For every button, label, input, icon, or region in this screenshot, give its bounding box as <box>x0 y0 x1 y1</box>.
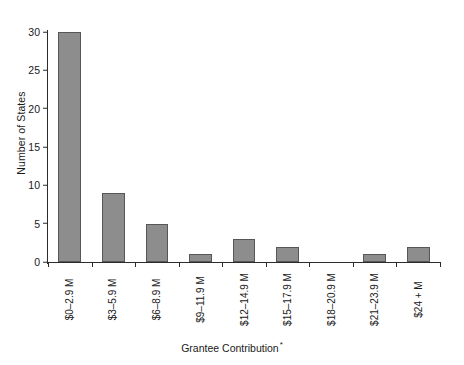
footnote-marker: * <box>280 340 283 349</box>
x-axis-tick-label: $18–20.9 M <box>309 268 353 330</box>
x-axis-tick-label-text: $21–23.9 M <box>369 273 380 326</box>
x-axis-tick-label-text: $0–2.9 M <box>64 279 75 321</box>
bar <box>407 247 430 262</box>
x-axis-tick-label: $21–23.9 M <box>353 268 397 330</box>
y-axis-tick-label: 15 <box>28 142 43 153</box>
y-axis-tick-mark <box>43 32 47 33</box>
y-axis-tick: 25 <box>3 65 47 76</box>
x-axis-tick-mark <box>309 263 310 267</box>
x-axis-tick-mark <box>353 263 354 267</box>
x-axis-tick-label-text: $3–5.9 M <box>108 279 119 321</box>
bar <box>233 239 256 262</box>
x-axis-tick-label-text: $9–11.9 M <box>195 276 206 323</box>
y-axis-tick-mark <box>43 108 47 109</box>
bar <box>363 254 386 262</box>
x-axis-labels: $0–2.9 M$3–5.9 M$6–8.9 M$9–11.9 M$12–14.… <box>48 268 440 330</box>
y-axis-tick-label: 25 <box>28 65 43 76</box>
x-axis-tick-label: $3–5.9 M <box>92 268 136 330</box>
y-axis-tick-label: 0 <box>34 257 43 268</box>
x-axis-line <box>47 262 441 263</box>
x-axis-tick-mark <box>396 263 397 267</box>
y-axis-tick: 15 <box>3 142 47 153</box>
x-axis-title: Grantee Contribution* <box>0 340 464 354</box>
x-axis-tick-mark <box>48 263 49 267</box>
y-axis-tick-label: 10 <box>28 180 43 191</box>
y-axis-ticks: 051015202530 <box>0 0 47 365</box>
x-axis-title-text: Grantee Contribution <box>181 342 278 354</box>
bar <box>189 254 212 262</box>
y-axis-tick: 30 <box>3 27 47 38</box>
x-axis-tick-label-text: $6–8.9 M <box>151 279 162 321</box>
x-axis-tick-mark <box>440 263 441 267</box>
y-axis-tick: 5 <box>3 218 47 229</box>
x-axis-tick-mark <box>135 263 136 267</box>
x-axis-tick-mark <box>222 263 223 267</box>
y-axis-tick: 0 <box>3 257 47 268</box>
x-axis-tick-label: $15–17.9 M <box>266 268 310 330</box>
x-axis-tick-label-text: $15–17.9 M <box>282 273 293 326</box>
x-axis-tick-mark <box>179 263 180 267</box>
bar-chart-figure: Number of States 051015202530 $0–2.9 M$3… <box>0 0 464 365</box>
y-axis-tick: 20 <box>3 103 47 114</box>
y-axis-tick-mark <box>43 70 47 71</box>
y-axis-tick-label: 30 <box>28 27 43 38</box>
x-axis-tick-mark <box>92 263 93 267</box>
bar <box>276 247 299 262</box>
x-axis-tick-label: $24 + M <box>396 268 440 330</box>
y-axis-tick-mark <box>43 147 47 148</box>
y-axis-tick-label: 5 <box>34 218 43 229</box>
y-axis-tick-mark <box>43 223 47 224</box>
x-axis-tick-label: $0–2.9 M <box>48 268 92 330</box>
x-axis-tick-label-text: $24 + M <box>413 281 424 317</box>
bar <box>58 32 81 262</box>
x-axis-tick-label: $9–11.9 M <box>179 268 223 330</box>
x-axis-tick-mark <box>266 263 267 267</box>
x-axis-tick-label-text: $12–14.9 M <box>238 273 249 326</box>
x-axis-tick-label: $6–8.9 M <box>135 268 179 330</box>
x-axis-tick-label: $12–14.9 M <box>222 268 266 330</box>
bar <box>146 224 169 262</box>
plot-area <box>48 32 440 262</box>
y-axis-tick: 10 <box>3 180 47 191</box>
y-axis-tick-mark <box>43 262 47 263</box>
y-axis-tick-label: 20 <box>28 103 43 114</box>
bar <box>102 193 125 262</box>
y-axis-tick-mark <box>43 185 47 186</box>
x-axis-tick-label-text: $18–20.9 M <box>326 273 337 326</box>
